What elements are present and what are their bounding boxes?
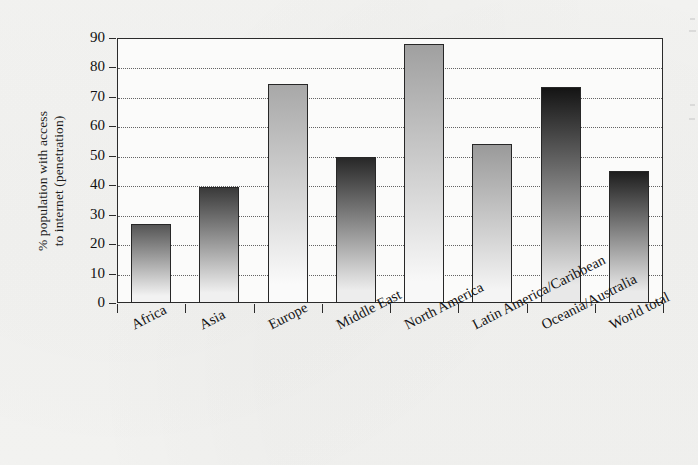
- y-tick-mark: [109, 126, 116, 127]
- bar: [404, 44, 444, 303]
- y-tick-mark: [109, 185, 116, 186]
- bar: [472, 144, 512, 303]
- y-tick-label: 70: [71, 89, 105, 104]
- y-tick-label: 90: [71, 30, 105, 45]
- x-tick-mark: [595, 304, 596, 313]
- y-tick-mark: [109, 274, 116, 275]
- x-tick-mark: [663, 304, 664, 313]
- y-tick-label: 30: [71, 207, 105, 222]
- y-tick-mark: [109, 244, 116, 245]
- bar: [199, 187, 239, 303]
- y-tick-mark: [109, 303, 116, 304]
- x-tick-mark: [390, 304, 391, 313]
- y-tick-mark: [109, 67, 116, 68]
- x-tick-mark: [322, 304, 323, 313]
- x-tick-mark: [458, 304, 459, 313]
- scan-artifact: [689, 118, 695, 120]
- y-tick-label: 20: [71, 236, 105, 251]
- bar: [336, 157, 376, 303]
- y-tick-label: 80: [71, 59, 105, 74]
- y-tick-mark: [109, 156, 116, 157]
- x-tick-mark: [117, 304, 118, 313]
- scan-artifact: [690, 18, 695, 20]
- bar: [268, 84, 308, 303]
- y-axis-title-line-2: to internet (penetration): [51, 41, 67, 321]
- x-axis-ticks: [117, 304, 663, 313]
- y-tick-label: 50: [71, 148, 105, 163]
- y-tick-label: 0: [71, 295, 105, 310]
- y-axis-title-line-1: % population with access: [35, 41, 51, 321]
- figure-page: % population with access to internet (pe…: [0, 0, 698, 465]
- y-tick-mark: [109, 215, 116, 216]
- bar: [131, 224, 171, 304]
- y-tick-label: 60: [71, 118, 105, 133]
- scan-artifact: [690, 104, 695, 106]
- y-tick-mark: [109, 97, 116, 98]
- y-axis-title: % population with access to internet (pe…: [35, 41, 67, 321]
- scan-artifact: [689, 30, 696, 32]
- x-tick-mark: [527, 304, 528, 313]
- x-tick-mark: [185, 304, 186, 313]
- x-tick-mark: [254, 304, 255, 313]
- bar-series: [117, 38, 663, 303]
- y-tick-label: 40: [71, 177, 105, 192]
- y-tick-mark: [109, 38, 116, 39]
- bar: [609, 171, 649, 304]
- y-tick-label: 10: [71, 266, 105, 281]
- bar: [541, 87, 581, 303]
